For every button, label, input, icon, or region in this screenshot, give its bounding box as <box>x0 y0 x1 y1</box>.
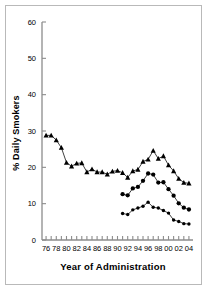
data-point-circle-small <box>126 213 129 216</box>
x-tick-label: 90 <box>113 244 121 253</box>
data-point-circle <box>166 187 170 191</box>
data-point-triangle <box>146 157 151 162</box>
data-point-circle <box>156 180 160 184</box>
data-point-circle-small <box>121 212 124 215</box>
data-point-triangle <box>120 170 125 175</box>
data-point-triangle <box>105 172 110 177</box>
x-tick-label: 84 <box>83 244 91 253</box>
data-point-triangle <box>156 156 161 161</box>
x-tick-label: 02 <box>175 244 183 253</box>
data-point-triangle <box>64 160 69 165</box>
data-point-circle <box>187 207 191 211</box>
data-point-circle-small <box>131 208 134 211</box>
y-tick-label: 50 <box>28 54 36 63</box>
data-point-circle <box>146 171 150 175</box>
data-point-circle-small <box>187 222 190 225</box>
y-tick-label: 10 <box>28 199 36 208</box>
data-point-circle <box>120 192 124 196</box>
chart-figure: % Daily Smokers Year of Administration 0… <box>0 0 208 291</box>
x-tick-label: 04 <box>185 244 193 253</box>
data-point-circle <box>131 186 135 190</box>
data-point-triangle <box>79 160 84 165</box>
data-point-triangle <box>166 162 171 167</box>
series-1 <box>44 133 192 186</box>
y-tick-label: 40 <box>28 90 36 99</box>
data-point-triangle <box>135 167 140 172</box>
x-tick-label: 88 <box>103 244 111 253</box>
data-point-circle-small <box>162 209 165 212</box>
data-point-triangle <box>181 180 186 185</box>
data-point-circle-small <box>167 211 170 214</box>
data-point-circle <box>136 185 140 189</box>
x-tick-label: 80 <box>62 244 70 253</box>
data-point-triangle <box>84 169 89 174</box>
x-tick-label: 86 <box>93 244 101 253</box>
data-point-circle-small <box>136 206 139 209</box>
data-point-triangle <box>69 164 74 169</box>
data-point-triangle <box>151 148 156 153</box>
data-point-circle-small <box>172 218 175 221</box>
x-tick-label: 96 <box>144 244 152 253</box>
data-point-triangle <box>59 145 64 150</box>
data-point-circle-small <box>157 206 160 209</box>
y-tick-label: 30 <box>28 127 36 136</box>
data-point-triangle <box>89 166 94 171</box>
data-point-circle-small <box>182 222 185 225</box>
x-tick-label: 00 <box>164 244 172 253</box>
y-tick-label: 60 <box>28 18 36 27</box>
data-point-circle <box>126 193 130 197</box>
data-point-circle-small <box>141 205 144 208</box>
data-point-triangle <box>161 153 166 158</box>
data-point-circle <box>151 172 155 176</box>
y-tick-label: 0 <box>32 236 36 245</box>
data-point-circle-small <box>177 220 180 223</box>
data-point-circle <box>141 179 145 183</box>
data-point-circle <box>177 201 181 205</box>
x-tick-label: 82 <box>73 244 81 253</box>
series-line <box>46 135 189 183</box>
data-point-circle-small <box>152 206 155 209</box>
x-tick-label: 76 <box>42 244 50 253</box>
plot-area: 0102030405060767880828486889092949698000… <box>0 0 208 291</box>
data-point-triangle <box>176 176 181 181</box>
x-tick-label: 78 <box>52 244 60 253</box>
x-tick-label: 92 <box>124 244 132 253</box>
data-point-circle <box>171 194 175 198</box>
data-point-circle-small <box>146 201 149 204</box>
data-point-triangle <box>140 159 145 164</box>
data-point-circle <box>182 206 186 210</box>
data-point-triangle <box>115 168 120 173</box>
x-tick-label: 98 <box>154 244 162 253</box>
x-tick-label: 94 <box>134 244 142 253</box>
data-point-circle <box>161 180 165 184</box>
series-2 <box>120 171 191 211</box>
y-tick-label: 20 <box>28 163 36 172</box>
